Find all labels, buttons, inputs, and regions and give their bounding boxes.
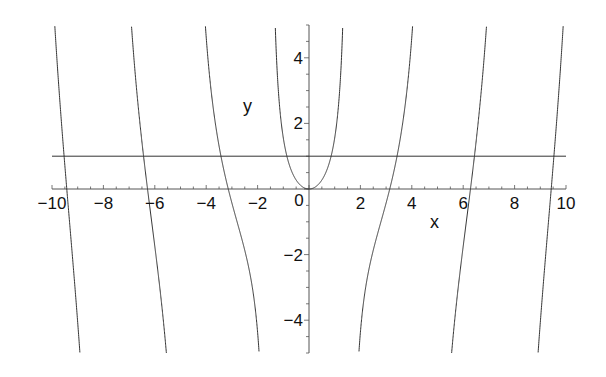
x-axis-label: x (430, 212, 439, 232)
x-tick-label: −2 (248, 194, 267, 213)
y-tick-label: −2 (284, 246, 303, 265)
x-tick-label: 4 (407, 194, 416, 213)
x-tick-label: −6 (145, 194, 164, 213)
x-tick-label: 6 (458, 194, 467, 213)
x-tick-label: −8 (94, 194, 113, 213)
y-tick-label: 2 (294, 114, 303, 133)
function-plot: −10−8−6−4−20246810−4−224 x y (0, 0, 606, 377)
x-tick-label: −4 (197, 194, 216, 213)
y-axis-label: y (243, 96, 252, 116)
x-tick-label: −10 (38, 194, 67, 213)
x-tick-label: 10 (557, 194, 576, 213)
tick-labels: −10−8−6−4−20246810−4−224 (38, 49, 576, 330)
x-tick-label: 0 (294, 191, 303, 210)
y-tick-label: 4 (294, 49, 303, 68)
x-tick-label: 2 (356, 194, 365, 213)
x-tick-label: 8 (510, 194, 519, 213)
y-tick-label: −4 (284, 311, 303, 330)
